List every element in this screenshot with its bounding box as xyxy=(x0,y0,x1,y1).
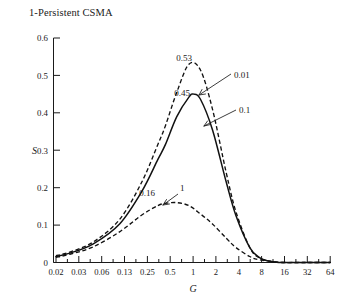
series-callout-0.1: 0.1 xyxy=(239,105,250,115)
y-tick-label: 0.5 xyxy=(37,71,49,81)
leader-line-1 xyxy=(163,194,178,205)
x-tick-label: 1 xyxy=(191,267,195,277)
peak-label-0.53: 0.53 xyxy=(176,53,192,63)
chart-plot: 0.6 0.5 0.4 0.3 0.2 0.1 0 S xyxy=(0,0,347,302)
chart-container: 1-Persistent CSMA 0.6 0.5 0.4 0.3 0.2 0.… xyxy=(0,0,347,302)
data-series-0.1 xyxy=(56,94,330,263)
y-tick-label: 0.2 xyxy=(37,183,48,193)
x-tick-label: 0.25 xyxy=(140,267,155,277)
y-axis-tick-labels: 0.6 0.5 0.4 0.3 0.2 0.1 0 xyxy=(37,33,49,267)
x-tick-label: 0.02 xyxy=(48,267,63,277)
data-series-0.01 xyxy=(56,62,330,262)
x-axis-ticks xyxy=(56,256,330,263)
y-tick-label: 0.6 xyxy=(37,33,49,43)
data-series-1 xyxy=(56,203,330,263)
x-tick-label: 16 xyxy=(280,267,289,277)
y-axis-title: S xyxy=(32,145,37,156)
x-tick-label: 64 xyxy=(326,267,335,277)
x-tick-label: 32 xyxy=(303,267,312,277)
x-tick-label: 0.5 xyxy=(165,267,176,277)
x-axis-tick-labels: 0.02 0.03 0.06 0.13 0.25 0.5 1 2 4 8 16 … xyxy=(48,267,335,277)
y-tick-label: 0.3 xyxy=(37,146,49,156)
x-tick-label: 4 xyxy=(237,267,242,277)
x-tick-label: 0.03 xyxy=(71,267,86,277)
peak-label-0.16: 0.16 xyxy=(139,188,155,198)
series-callout-0.01: 0.01 xyxy=(234,70,250,80)
series-callout-1: 1 xyxy=(180,183,185,193)
x-tick-label: 0.13 xyxy=(117,267,132,277)
y-tick-label: 0.4 xyxy=(37,108,49,118)
peak-label-0.45: 0.45 xyxy=(174,88,190,98)
x-tick-label: 8 xyxy=(259,267,263,277)
y-tick-label: 0.1 xyxy=(37,220,48,230)
y-axis-ticks xyxy=(54,38,61,263)
x-axis-title: G xyxy=(189,283,196,294)
x-tick-label: 2 xyxy=(214,267,218,277)
x-tick-label: 0.06 xyxy=(94,267,110,277)
